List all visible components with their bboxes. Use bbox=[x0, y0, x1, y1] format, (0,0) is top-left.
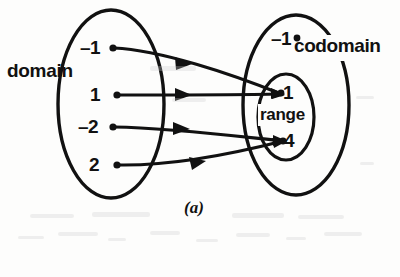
domain-oval bbox=[58, 10, 164, 198]
codomain-element-value: 1 bbox=[283, 83, 293, 102]
codomain-element-value: –1 bbox=[271, 29, 291, 48]
domain-element-value: –2 bbox=[78, 117, 98, 136]
domain-dot-2 bbox=[113, 161, 120, 168]
domain-element-value: –1 bbox=[80, 38, 100, 57]
arrow-2-to-4 bbox=[118, 138, 287, 170]
range-label: range bbox=[260, 106, 305, 123]
domain-dot--2 bbox=[109, 123, 116, 130]
domain-element-value: 2 bbox=[89, 155, 99, 174]
codomain-element-value: 4 bbox=[284, 131, 294, 150]
domain-label: domain bbox=[7, 61, 73, 80]
domain-dot-1 bbox=[113, 91, 120, 98]
figure-caption: (a) bbox=[184, 199, 204, 216]
domain-element-value: 1 bbox=[90, 85, 100, 104]
arrow--1-to-1 bbox=[114, 48, 285, 99]
codomain-label: codomain bbox=[294, 36, 381, 55]
domain-dot--1 bbox=[109, 44, 116, 51]
figure-canvas: domain codomain range –1 1 –2 2 –1 1 4 (… bbox=[0, 0, 400, 277]
